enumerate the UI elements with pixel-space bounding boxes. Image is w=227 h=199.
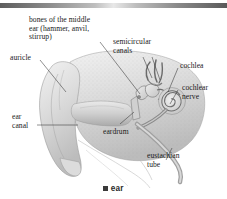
label-eustachian-tube: eustachian tube (147, 152, 209, 169)
label-ear-canal: ear canal (12, 113, 44, 130)
label-cochlear-nerve: cochlear nerve (182, 84, 227, 101)
ear-anatomy-figure: bones of the middle ear (hammer, anvil, … (0, 0, 227, 199)
caption-label: ear (111, 184, 124, 193)
label-auricle: auricle (10, 54, 58, 63)
label-eardrum: eardrum (103, 128, 153, 137)
label-cochlea: cochlea (180, 62, 226, 71)
label-semicircular-canals: semicircular canals (113, 38, 179, 55)
figure-caption: ear (0, 184, 227, 193)
caption-bullet-icon (103, 186, 108, 191)
